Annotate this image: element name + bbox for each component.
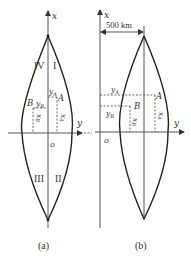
x-a-label-b: xA bbox=[157, 112, 167, 120]
y-b-label-b: yB bbox=[105, 109, 114, 119]
quadrant-iii-label: III bbox=[34, 173, 44, 184]
figure-a: x y o IV I III II A yA xA B yB xB (a) bbox=[8, 11, 92, 252]
point-b-label-b: B bbox=[133, 101, 140, 111]
lens-right-curve-b bbox=[144, 36, 169, 219]
y-axis-label-b: y bbox=[173, 118, 180, 128]
caption-a: (a) bbox=[38, 240, 49, 252]
point-b-label-a: B bbox=[26, 98, 33, 108]
top-vertex-a bbox=[47, 35, 50, 38]
y-a-label-a: yA bbox=[48, 87, 57, 97]
origin-label-b: o bbox=[104, 136, 109, 145]
y-b-label-a: yB bbox=[35, 99, 44, 109]
figure-canvas: x y o IV I III II A yA xA B yB xB (a) bbox=[0, 0, 191, 265]
figure-b: x 500 km y o A yA xA B yB xB (b) bbox=[95, 10, 184, 252]
lens-right-curve-a bbox=[48, 36, 73, 220]
y-a-label-b: yA bbox=[110, 85, 119, 95]
x-a-label-a: xA bbox=[59, 114, 69, 122]
x-axis-label-b: x bbox=[104, 10, 109, 20]
quadrant-i-label: I bbox=[53, 60, 56, 71]
distance-label-b: 500 km bbox=[106, 20, 132, 30]
quadrant-iv-label: IV bbox=[34, 60, 45, 71]
y-axis-label-a: y bbox=[76, 118, 83, 128]
x-b-label-a: xB bbox=[35, 114, 45, 122]
lens-left-curve-b bbox=[120, 36, 145, 219]
bottom-vertex-a bbox=[47, 219, 50, 222]
quadrant-ii-label: II bbox=[55, 173, 62, 184]
x-b-label-b: xB bbox=[131, 118, 141, 126]
origin-label-a: o bbox=[50, 140, 55, 149]
caption-b: (b) bbox=[135, 240, 147, 252]
x-axis-label-a: x bbox=[52, 11, 57, 21]
point-a-label-a: A bbox=[57, 93, 64, 103]
point-a-label-b: A bbox=[155, 91, 162, 101]
